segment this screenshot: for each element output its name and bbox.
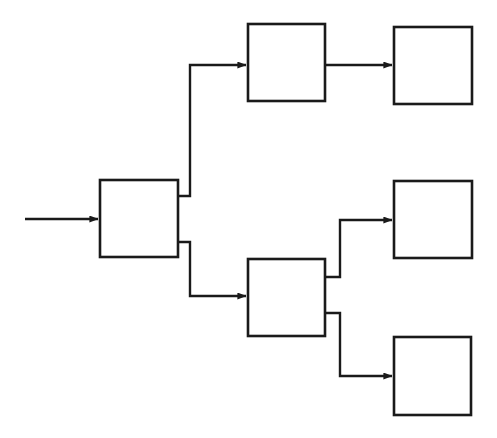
nodes-layer — [100, 24, 472, 415]
lower-branch-to-upper-terminal-edge — [325, 220, 392, 277]
root-block-rect[interactable] — [100, 180, 178, 257]
root-to-upper-branch-edge — [178, 65, 246, 196]
node-lower-lower-terminal-block[interactable] — [394, 337, 471, 415]
diagram-canvas — [0, 0, 497, 438]
node-lower-branch-block[interactable] — [248, 259, 325, 336]
root-to-lower-branch-edge — [178, 242, 246, 296]
edges-layer — [25, 65, 392, 376]
upper-terminal-block-rect[interactable] — [394, 27, 472, 104]
lower-lower-terminal-block-rect[interactable] — [394, 337, 471, 415]
node-upper-terminal-block[interactable] — [394, 27, 472, 104]
lower-upper-terminal-block-rect[interactable] — [394, 181, 472, 258]
lower-branch-block-rect[interactable] — [248, 259, 325, 336]
node-root-block[interactable] — [100, 180, 178, 257]
lower-branch-to-lower-terminal-edge — [325, 313, 392, 376]
node-upper-branch-block[interactable] — [248, 24, 325, 101]
node-lower-upper-terminal-block[interactable] — [394, 181, 472, 258]
upper-branch-block-rect[interactable] — [248, 24, 325, 101]
flow-diagram — [0, 0, 497, 438]
